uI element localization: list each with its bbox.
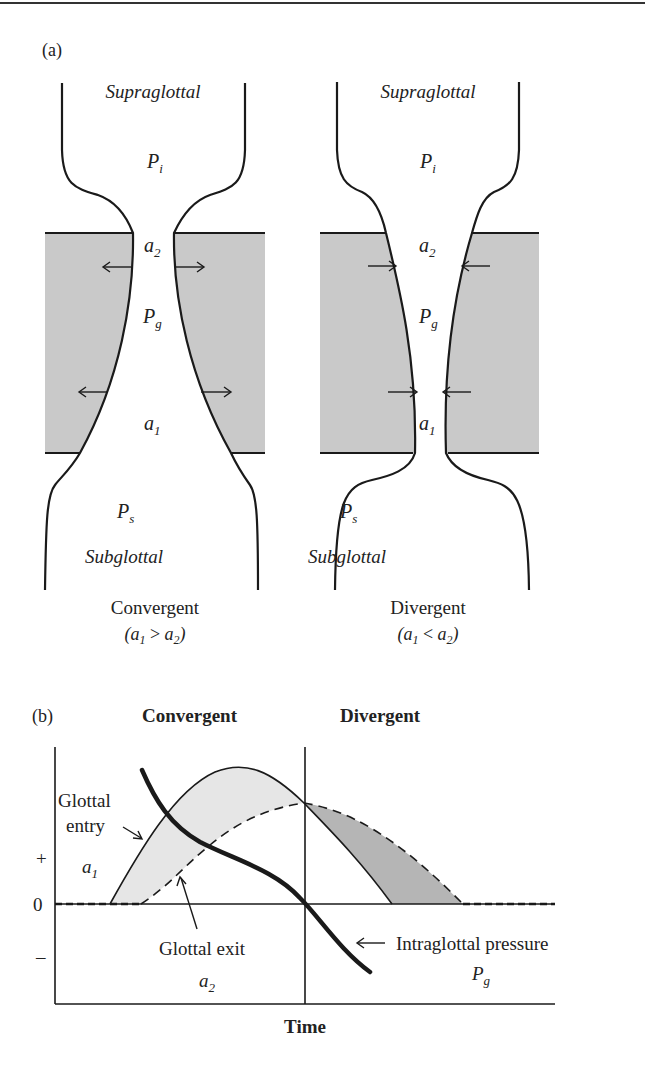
entry-label-line2: entry bbox=[66, 815, 106, 836]
a2-label: a2 bbox=[419, 234, 436, 260]
convergent-shaded-region bbox=[110, 767, 304, 904]
pressure-pointer-arrow bbox=[357, 938, 385, 948]
pg-label: Pg bbox=[142, 305, 162, 331]
pg-label: Pg bbox=[418, 305, 438, 331]
panel-b-label: (b) bbox=[32, 706, 53, 727]
pressure-pg-symbol: Pg bbox=[471, 963, 491, 988]
y-tick-plus: + bbox=[36, 848, 47, 869]
timing-chart: + 0 – Glottal entry a1 Glottal exit a2 I… bbox=[33, 747, 555, 1037]
entry-a1-symbol: a1 bbox=[82, 856, 98, 881]
a2-label: a2 bbox=[144, 234, 161, 260]
a1-label: a1 bbox=[144, 412, 161, 438]
divergent-title: Divergent bbox=[390, 597, 466, 618]
subglottal-label: Subglottal bbox=[308, 546, 386, 567]
divergent-condition: (a1 < a2) bbox=[397, 624, 458, 647]
convergent-diagram: Supraglottal Pi a2 Pg a1 Ps Subglottal C… bbox=[45, 81, 265, 647]
entry-label-line1: Glottal bbox=[58, 790, 111, 811]
left-vocal-fold-tissue bbox=[320, 233, 415, 453]
subglottal-label: Subglottal bbox=[85, 546, 163, 567]
exit-a2-symbol: a2 bbox=[199, 970, 216, 995]
right-vocal-fold-tissue bbox=[446, 233, 539, 453]
y-tick-zero: 0 bbox=[33, 894, 43, 915]
entry-pointer-arrow bbox=[123, 827, 142, 839]
panel-a-label: (a) bbox=[42, 40, 62, 61]
convergent-title: Convergent bbox=[111, 597, 200, 618]
phase-convergent-heading: Convergent bbox=[142, 705, 238, 726]
figure-canvas: (a) Supraglottal Pi a2 Pg a1 Ps Subg bbox=[0, 0, 645, 1067]
x-axis-label: Time bbox=[284, 1016, 326, 1037]
y-tick-minus: – bbox=[35, 946, 46, 967]
left-vocal-fold-tissue bbox=[45, 233, 133, 453]
convergent-condition: (a1 > a2) bbox=[124, 624, 185, 647]
exit-label-line1: Glottal exit bbox=[159, 938, 246, 959]
pi-label: Pi bbox=[419, 150, 436, 176]
supraglottal-label: Supraglottal bbox=[105, 81, 200, 102]
divergent-shaded-region bbox=[304, 803, 463, 904]
pi-label: Pi bbox=[146, 150, 163, 176]
a1-label: a1 bbox=[419, 412, 436, 438]
pressure-label-line1: Intraglottal pressure bbox=[396, 933, 548, 954]
supraglottal-label: Supraglottal bbox=[380, 81, 475, 102]
ps-label: Ps bbox=[339, 500, 357, 526]
exit-pointer-arrow bbox=[177, 877, 197, 929]
phase-divergent-heading: Divergent bbox=[340, 705, 421, 726]
ps-label: Ps bbox=[116, 500, 134, 526]
